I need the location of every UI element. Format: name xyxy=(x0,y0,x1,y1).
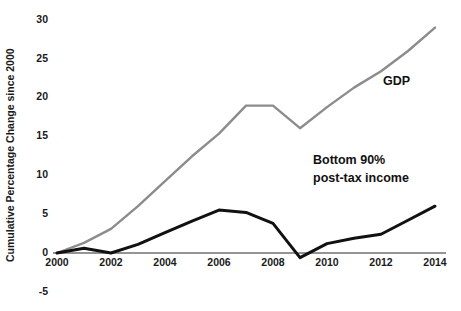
chart-page: Cumulative Percentage Change since 2000 … xyxy=(0,0,461,311)
x-tick-labels: 2000 2002 2004 2006 2008 2010 2012 2014 xyxy=(45,256,447,268)
x-tick-label: 2000 xyxy=(45,256,69,268)
y-tick-labels: 30 25 20 15 10 5 0 -5 xyxy=(36,13,48,297)
x-tick-label: 2010 xyxy=(315,256,339,268)
series-line-gdp xyxy=(57,28,435,253)
x-tick-label: 2008 xyxy=(261,256,285,268)
y-tick-label: -5 xyxy=(39,285,48,297)
line-chart: Cumulative Percentage Change since 2000 … xyxy=(0,0,461,311)
y-tick-label: 15 xyxy=(36,129,48,141)
series-label-gdp: GDP xyxy=(383,74,410,88)
x-tick-label: 2002 xyxy=(99,256,123,268)
y-tick-label: 30 xyxy=(36,13,48,25)
y-tick-label: 20 xyxy=(36,90,48,102)
x-tick-label: 2012 xyxy=(369,256,393,268)
x-tick-label: 2014 xyxy=(423,256,447,268)
y-tick-label: 5 xyxy=(42,207,48,219)
series-line-bottom90 xyxy=(57,206,435,257)
x-tick-label: 2006 xyxy=(207,256,231,268)
series-label-bottom90-line2: post-tax income xyxy=(313,171,409,185)
x-tick-label: 2004 xyxy=(153,256,177,268)
series-label-bottom90-line1: Bottom 90% xyxy=(313,153,385,167)
y-tick-label: 25 xyxy=(36,52,48,64)
y-axis-title: Cumulative Percentage Change since 2000 xyxy=(4,48,16,262)
y-tick-label: 10 xyxy=(36,168,48,180)
